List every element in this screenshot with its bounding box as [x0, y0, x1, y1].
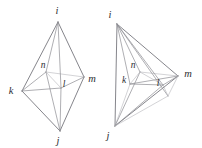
left-edge-k-l [22, 88, 61, 91]
left-edge-n-k [22, 72, 46, 91]
left-edge-l-j [60, 88, 61, 131]
left-tetrahedron-panel: i j k m n l [9, 5, 97, 146]
right-edge-i-n [117, 24, 140, 72]
left-label-m: m [88, 73, 96, 84]
right-label-n: n [131, 60, 136, 70]
right-tetrahedron-panel: i j k m n l [105, 9, 193, 141]
right-edge-lower-j [115, 96, 168, 126]
right-label-j: j [105, 130, 110, 141]
left-edge-i-l [58, 22, 61, 88]
left-edge-m-i [58, 22, 84, 77]
right-label-i: i [109, 9, 112, 20]
right-label-m: m [184, 68, 192, 79]
left-edge-k-j [22, 91, 60, 131]
right-edge-n-j [115, 72, 140, 126]
left-label-j: j [55, 135, 60, 146]
figure-container: i j k m n l [0, 0, 202, 148]
left-edge-i-n [46, 22, 58, 72]
right-label-k: k [122, 75, 127, 85]
right-label-l: l [157, 78, 160, 88]
left-label-l: l [63, 79, 66, 89]
left-edge-n-m [46, 72, 84, 77]
tetrahedra-figure: i j k m n l [0, 0, 202, 148]
left-edge-n-j [46, 72, 60, 131]
right-edge-i-j [115, 24, 117, 126]
left-label-k: k [9, 85, 14, 96]
left-edge-i-k [22, 22, 58, 91]
left-label-i: i [56, 5, 59, 16]
left-label-n: n [41, 60, 46, 70]
right-edge-m-i [117, 24, 178, 76]
